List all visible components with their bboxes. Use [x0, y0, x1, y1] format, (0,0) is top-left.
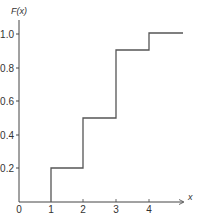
cdf-step-line	[51, 33, 183, 202]
y-tick-label: 1.0	[0, 29, 14, 40]
y-tick-label: 0.8	[0, 63, 14, 74]
y-tick-label: 0.6	[0, 96, 14, 107]
y-tick-label: 0.2	[0, 163, 14, 174]
x-tick-label: 2	[80, 204, 86, 213]
x-tick-label: 3	[113, 204, 119, 213]
y-axis-title: F(x)	[11, 6, 27, 16]
cdf-step-chart: 1.0 0.8 0.6 0.4 0.2 0 1 2 3 4 F(x) x	[0, 0, 205, 213]
x-axis-title: x	[187, 192, 193, 202]
x-tick-label: 4	[146, 204, 152, 213]
x-tick-label: 0	[16, 204, 22, 213]
y-tick-label: 0.4	[0, 130, 14, 141]
x-tick-label: 1	[48, 204, 54, 213]
